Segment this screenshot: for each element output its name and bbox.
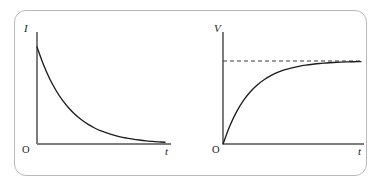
voltage-y-axis-label: V [214, 23, 221, 34]
current-origin-label: O [22, 145, 30, 156]
voltage-x-axis-label: t [358, 146, 361, 157]
figure-root: I t O V t O [0, 0, 381, 186]
voltage-origin-label: O [212, 145, 220, 156]
figure-frame: I t O V t O [14, 10, 367, 176]
current-decay-plot [15, 11, 205, 177]
panel-current-decay: I t O [15, 11, 205, 175]
current-decay-curve [37, 47, 165, 142]
current-x-axis-label: t [165, 146, 168, 157]
voltage-rise-plot [201, 11, 381, 177]
panel-voltage-rise: V t O [201, 11, 381, 175]
current-y-axis-label: I [24, 23, 28, 34]
voltage-rise-curve [223, 62, 361, 144]
